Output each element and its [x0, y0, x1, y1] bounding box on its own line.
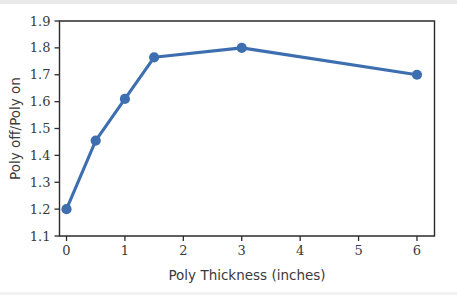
- y-tick-label: 1.8: [30, 40, 51, 55]
- x-tick-label: 0: [62, 243, 70, 258]
- y-tick-label: 1.6: [30, 94, 51, 109]
- data-point-marker: [412, 70, 422, 80]
- y-axis-tick-group: 1.11.21.31.41.51.61.71.81.9: [30, 14, 60, 244]
- x-tick-label: 3: [238, 243, 246, 258]
- figure-canvas: 1.11.21.31.41.51.61.71.81.9 0123456 Poly…: [0, 0, 457, 295]
- data-point-marker: [91, 135, 101, 145]
- x-tick-label: 1: [121, 243, 129, 258]
- axes-spines: [60, 21, 435, 236]
- y-axis-title: Poly off/Poly on: [7, 77, 23, 180]
- data-point-marker: [149, 52, 159, 62]
- chart-plot: 1.11.21.31.41.51.61.71.81.9 0123456 Poly…: [0, 0, 457, 295]
- x-axis-tick-group: 0123456: [62, 236, 421, 258]
- y-tick-label: 1.3: [30, 175, 51, 190]
- data-series-line: [67, 48, 417, 209]
- y-tick-label: 1.1: [30, 229, 51, 244]
- data-point-marker: [120, 94, 130, 104]
- y-tick-label: 1.9: [30, 14, 51, 29]
- x-tick-label: 4: [296, 243, 304, 258]
- data-point-marker: [61, 204, 71, 214]
- y-tick-label: 1.4: [30, 148, 51, 163]
- x-tick-label: 6: [413, 243, 421, 258]
- data-point-marker: [237, 43, 247, 53]
- x-tick-label: 2: [179, 243, 187, 258]
- x-tick-label: 5: [354, 243, 362, 258]
- y-tick-label: 1.2: [30, 202, 51, 217]
- y-tick-label: 1.5: [30, 121, 51, 136]
- x-axis-title: Poly Thickness (inches): [168, 267, 325, 283]
- y-tick-label: 1.7: [30, 67, 51, 82]
